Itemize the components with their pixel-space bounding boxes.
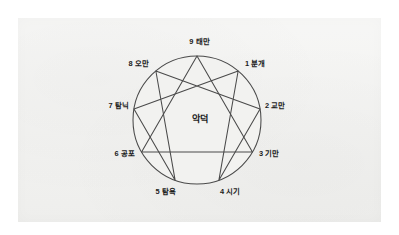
- enneagram-point-label-5: 5 탐욕: [0, 188, 176, 195]
- enneagram-point-label-9: 9 태만: [0, 38, 399, 45]
- enneagram-center-label: 악덕: [0, 115, 399, 124]
- enneagram-point-label-2: 2 교만: [265, 102, 286, 109]
- screenshot-root: 9 태만1 분개2 교만3 기만4 시기5 탐욕6 공포7 탐닉8 오만 악덕: [0, 0, 399, 235]
- enneagram-point-label-4: 4 시기: [220, 188, 241, 195]
- enneagram-point-label-7: 7 탐닉: [0, 102, 129, 109]
- enneagram-point-label-3: 3 기만: [259, 150, 280, 157]
- enneagram-point-label-1: 1 분개: [245, 60, 266, 67]
- enneagram-point-label-6: 6 공포: [0, 150, 135, 157]
- enneagram-point-label-8: 8 오만: [0, 60, 149, 67]
